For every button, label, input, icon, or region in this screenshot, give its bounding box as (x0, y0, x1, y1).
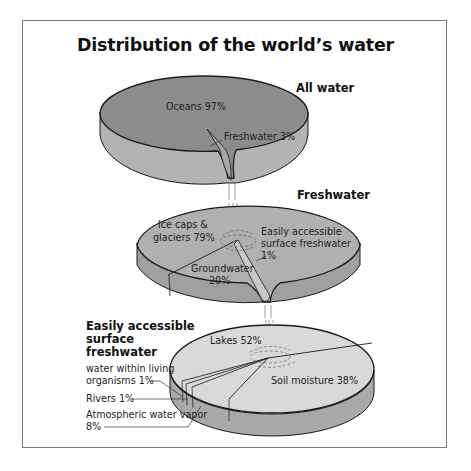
label-rivers: Rivers 1% (86, 393, 134, 404)
label-lakes: Lakes 52% (210, 335, 262, 346)
disk-freshwater: Ice caps & glaciers 79% Groundwater 20% … (137, 188, 370, 303)
disk-all-water: Oceans 97% Freshwater 3% All water (100, 76, 354, 184)
heading-all-water: All water (296, 81, 354, 95)
water-distribution-diagram: Oceans 97% Freshwater 3% All water Ice c… (0, 0, 471, 471)
label-freshwater-3: Freshwater 3% (224, 131, 295, 142)
label-living-organisms: water within living organisms 1% (86, 363, 177, 386)
heading-freshwater: Freshwater (297, 188, 370, 202)
label-soil-moisture: Soil moisture 38% (271, 375, 358, 386)
surface-disk-top (170, 325, 374, 413)
label-oceans: Oceans 97% (166, 101, 226, 112)
